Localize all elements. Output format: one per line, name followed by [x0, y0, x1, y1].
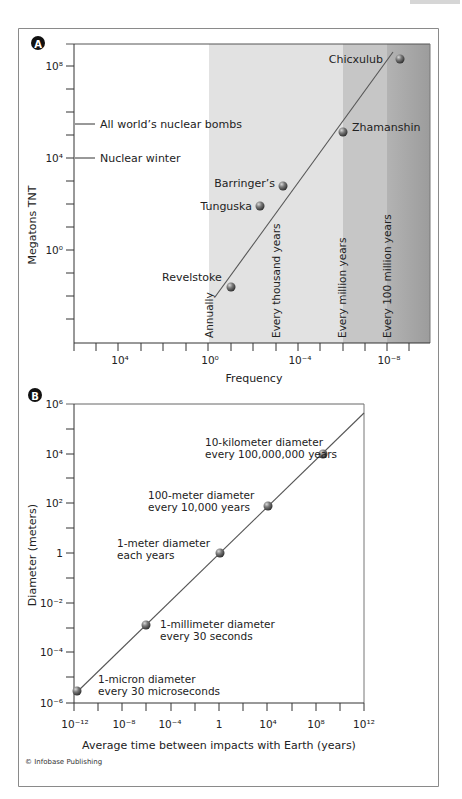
point-label-zhamanshin: Zhamanshin — [352, 121, 420, 134]
y-ticks-b — [66, 429, 74, 677]
point-100m — [264, 502, 273, 511]
label-1micron-line2: every 30 microseconds — [98, 685, 220, 697]
point-1micron — [73, 687, 82, 696]
point-label-revelstoke: Revelstoke — [162, 271, 222, 284]
y-tick-label-b-4: 10⁻² — [40, 597, 63, 609]
x-ticks-b — [74, 703, 364, 711]
x-tick-label-b-4: 10⁴ — [259, 718, 277, 730]
label-100m-line2: every 10,000 years — [148, 501, 250, 513]
band-label-thousand: Every thousand years — [270, 224, 282, 339]
label-10km-line2: every 100,000,000 years — [205, 448, 337, 460]
point-label-chicxulub: Chicxulub — [329, 53, 383, 66]
x-tick-label-b-3: 1 — [216, 718, 223, 730]
point-1mm — [142, 621, 151, 630]
band-label-annually: Annually — [203, 292, 215, 338]
figure: A 10⁸ 10⁴ 10⁰ Megatons TNT — [0, 0, 462, 799]
point-1m — [216, 549, 225, 558]
point-chicxulub — [396, 55, 405, 64]
y-tick-label-b-3: 1 — [56, 547, 63, 559]
label-100m-line1: 100-meter diameter — [148, 489, 255, 501]
y-tick-label-b-5: 10⁻⁴ — [40, 646, 63, 658]
x-tick-label-a-3: 10⁻⁸ — [377, 354, 400, 366]
y-ticks-a — [66, 66, 74, 319]
credit-text: © Infobase Publishing — [25, 758, 102, 766]
y-axis-label-a: Megatons TNT — [26, 185, 39, 264]
y-tick-label-a-0: 10⁸ — [45, 60, 63, 72]
label-1m-line2: each years — [117, 549, 175, 561]
band-dark — [387, 44, 430, 343]
point-revelstoke — [227, 283, 236, 292]
label-10km-line1: 10-kilometer diameter — [205, 436, 324, 448]
x-tick-label-b-1: 10⁻⁸ — [112, 718, 135, 730]
y-tick-label-b-0: 10⁶ — [45, 398, 63, 410]
x-tick-label-b-6: 10¹² — [353, 718, 375, 730]
x-tick-label-b-2: 10⁻⁴ — [158, 718, 181, 730]
point-label-tunguska: Tunguska — [199, 200, 252, 213]
panel-a-badge: A — [34, 39, 42, 50]
y-tick-label-a-2: 10⁰ — [45, 244, 63, 256]
y-tick-label-b-2: 10² — [45, 497, 63, 509]
point-zhamanshin — [339, 128, 348, 137]
x-axis-label-b: Average time between impacts with Earth … — [82, 739, 356, 752]
label-1m-line1: 1-meter diameter — [117, 537, 211, 549]
x-tick-label-a-2: 10⁻⁴ — [288, 354, 311, 366]
panel-b: B 10⁶ 10⁴ 10² 1 10⁻² 10⁻⁴ 10⁻⁶ Diameter … — [26, 388, 375, 752]
y-axis-label-b: Diameter (meters) — [26, 504, 39, 606]
label-1mm-line1: 1-millimeter diameter — [160, 618, 276, 630]
point-barringers — [279, 182, 288, 191]
x-ticks-a — [74, 343, 409, 351]
panel-a: A 10⁸ 10⁴ 10⁰ Megatons TNT — [26, 36, 430, 385]
band-label-million: Every million years — [336, 238, 348, 338]
x-tick-label-b-0: 10⁻¹² — [61, 718, 88, 730]
point-tunguska — [256, 202, 265, 211]
x-axis-label-a: Frequency — [226, 372, 283, 385]
panel-b-badge: B — [31, 391, 39, 402]
ref-label-nuclear-winter: Nuclear winter — [100, 152, 181, 165]
y-tick-label-b-1: 10⁴ — [45, 448, 63, 460]
point-label-barringers: Barringer’s — [214, 177, 275, 190]
x-tick-label-a-0: 10⁴ — [111, 354, 129, 366]
x-tick-label-a-1: 10⁰ — [201, 354, 219, 366]
x-tick-label-b-5: 10⁸ — [307, 718, 325, 730]
band-label-100-million: Every 100 million years — [381, 214, 393, 338]
label-1mm-line2: every 30 seconds — [160, 630, 253, 642]
ref-label-nuclear-bombs: All world’s nuclear bombs — [100, 118, 242, 131]
label-1micron-line1: 1-micron diameter — [98, 673, 196, 685]
y-tick-label-b-6: 10⁻⁶ — [40, 697, 63, 709]
y-tick-label-a-1: 10⁴ — [45, 152, 63, 164]
